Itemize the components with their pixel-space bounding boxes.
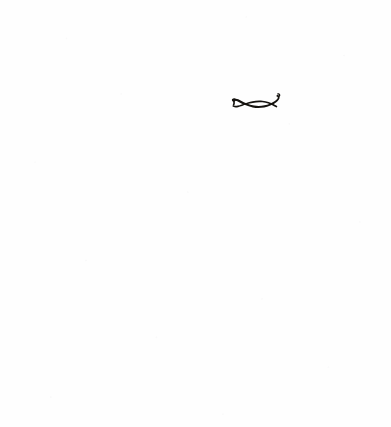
scanned-page	[0, 0, 391, 427]
ink-flourish-mark	[228, 88, 285, 117]
tilde-swash-icon	[228, 88, 285, 117]
